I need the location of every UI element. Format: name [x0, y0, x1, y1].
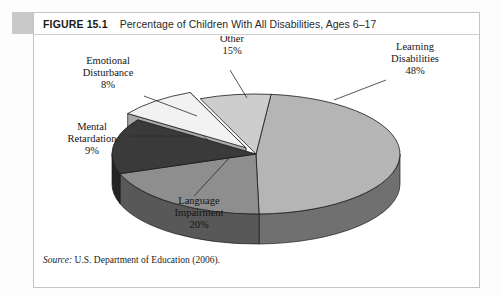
- leader-line-other: [230, 70, 247, 98]
- pie-label-learning-disabilities: LearningDisabilities48%: [391, 41, 439, 76]
- pie-chart: LearningDisabilities48%LanguageImpairmen…: [34, 36, 479, 264]
- pie-label-emotional-disturbance: EmotionalDisturbance8%: [83, 55, 134, 90]
- pie-label-other: Other15%: [220, 36, 244, 56]
- source-text: U.S. Department of Education (2006).: [75, 255, 220, 265]
- figure-number: FIGURE 15.1: [43, 18, 108, 30]
- pie-chart-svg: LearningDisabilities48%LanguageImpairmen…: [34, 36, 479, 264]
- header-gray-tab: [12, 12, 33, 34]
- figure-title: Percentage of Children With All Disabili…: [120, 18, 377, 30]
- page-background: FIGURE 15.1 Percentage of Children With …: [0, 0, 502, 297]
- figure-frame: FIGURE 15.1 Percentage of Children With …: [33, 12, 480, 288]
- pie-label-mental-retardation: MentalRetardation9%: [68, 121, 118, 156]
- figure-header: FIGURE 15.1 Percentage of Children With …: [34, 13, 479, 35]
- source-note: Source: U.S. Department of Education (20…: [43, 255, 220, 265]
- pie-slices-group: [112, 92, 400, 244]
- leader-line-learning-disabilities: [334, 80, 386, 100]
- source-prefix: Source:: [43, 255, 72, 265]
